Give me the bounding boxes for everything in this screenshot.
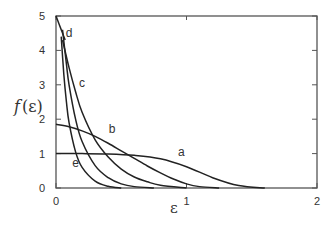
curve-a	[56, 154, 265, 188]
y-tick-label: 3	[39, 79, 45, 91]
y-tick-label: 1	[39, 148, 45, 160]
curve-label-e: e	[72, 156, 79, 170]
x-tick-label: 1	[183, 195, 189, 207]
y-tick-label: 4	[39, 44, 45, 56]
x-axis-label: ε	[170, 199, 178, 217]
plot-frame	[56, 16, 317, 188]
y-tick-label: 5	[39, 10, 45, 22]
y-ticks: 012345	[39, 10, 317, 194]
curve-e	[61, 37, 121, 188]
y-tick-label: 0	[39, 182, 45, 194]
curve-initial	[56, 16, 65, 40]
curve-labels: abcde	[66, 26, 185, 170]
y-axis-label: f (ε)	[13, 97, 43, 116]
curve-label-c: c	[79, 76, 85, 90]
curve-label-b: b	[109, 122, 116, 136]
curves	[56, 16, 265, 188]
y-axis-label-arg: (ε)	[22, 97, 43, 116]
x-tick-label: 0	[53, 195, 59, 207]
x-ticks: 012	[53, 16, 320, 207]
curve-label-a: a	[178, 145, 185, 159]
curve-label-d: d	[66, 26, 73, 40]
chart-figure: 012345 012 abcde f (ε) ε	[0, 0, 330, 227]
x-tick-label: 2	[314, 195, 320, 207]
